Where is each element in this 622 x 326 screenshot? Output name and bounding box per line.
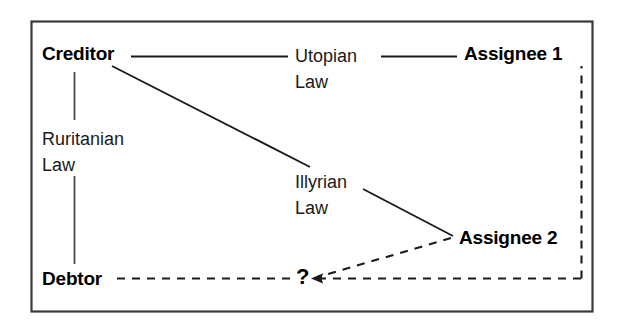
edge-label-utopian-law: Utopian Law [295,44,357,95]
edge-label-ruritanian-law-line1: Ruritanian [42,127,124,153]
node-assignee-2: Assignee 2 [459,228,557,247]
edge-label-illyrian-law: Illyrian Law [295,170,347,221]
edge-label-illyrian-law-line2: Law [295,196,347,222]
edge-label-ruritanian-law: Ruritanian Law [42,127,124,178]
node-assignee-1: Assignee 1 [464,44,562,63]
node-creditor: Creditor [42,44,114,63]
edge-label-ruritanian-law-line2: Law [42,153,124,179]
edge-label-utopian-law-line1: Utopian [295,44,357,70]
unknown-law-question-mark: ? [296,266,309,288]
edge-label-utopian-law-line2: Law [295,70,357,96]
edge-label-illyrian-law-line1: Illyrian [295,170,347,196]
diagram-figure: Creditor Assignee 1 Assignee 2 Debtor ? … [0,0,622,326]
node-debtor: Debtor [42,269,102,288]
